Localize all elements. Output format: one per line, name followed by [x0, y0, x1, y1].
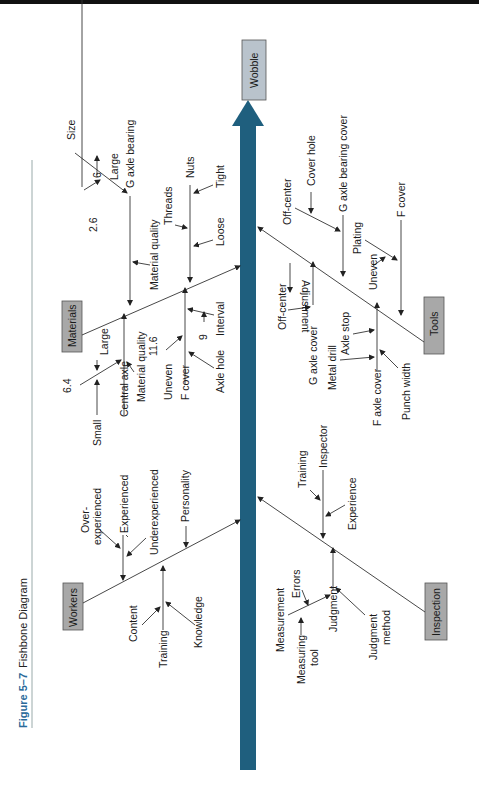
cause-adjustment: Adjustment [300, 280, 312, 333]
inspection-label: Inspection [430, 588, 442, 636]
cause-inspector: Inspector [317, 424, 329, 468]
cause-training-inspection: Training [296, 450, 308, 488]
cause-knowledge: Knowledge [192, 596, 204, 648]
cause-judgment-method-2: method [380, 610, 392, 645]
spine-arrow [232, 100, 264, 770]
cause-f-cover: F cover [179, 364, 191, 400]
cause-loose: Loose [214, 217, 226, 246]
cause-interval: Interval [214, 302, 226, 336]
cause-material-quality: Material quality [135, 331, 147, 402]
cause-f-axle-cover: F axle cover [371, 368, 383, 426]
effect-label: Wobble [248, 52, 260, 88]
cause-central-axle: Central axle [118, 361, 130, 417]
cause-cover-hole: Cover hole [305, 135, 317, 186]
category-box-tools: Tools [424, 297, 444, 354]
cause-punch-width: Punch width [400, 363, 412, 420]
figure-title: Fishbone Diagram [17, 578, 29, 668]
materials-label: Materials [66, 304, 78, 347]
cause-measurement: Measurement [274, 588, 286, 652]
cause-6-4: 6.4 [61, 378, 73, 393]
cause-judgment-method-1: Judgment [367, 614, 379, 660]
cause-content: Content [127, 605, 139, 642]
category-box-workers: Workers [63, 583, 83, 630]
category-box-inspection: Inspection [425, 583, 447, 640]
cause-size-6: 6 [91, 172, 103, 178]
cause-uneven-tools: Uneven [367, 254, 379, 290]
category-box-materials: Materials [62, 301, 82, 352]
cause-personality: Personality [179, 469, 191, 522]
cause-tight: Tight [214, 165, 226, 188]
cause-measuring-tool-1: Measuring [295, 635, 307, 684]
cause-size-large: Large [108, 153, 120, 180]
cause-size-2-6: 2.6 [87, 217, 99, 232]
cause-experience: Experience [346, 477, 358, 530]
cause-nuts: Nuts [184, 156, 196, 178]
cause-off-center-top: Off-center [281, 178, 293, 225]
fishbone-diagram: Figure 5–7 Fishbone Diagram Wobble Mater… [0, 0, 479, 805]
cause-axle-stop: Axle stop [339, 312, 351, 355]
workers-label: Workers [67, 588, 79, 627]
cause-f-cover-tools: F cover [395, 181, 407, 217]
cause-central-large: Large [98, 328, 110, 355]
cause-uneven: Uneven [162, 364, 174, 400]
cause-material-quality-top: Material quality [148, 219, 160, 290]
cause-experienced: Experienced [118, 474, 130, 533]
cause-plating: Plating [351, 222, 363, 254]
cause-g-axle-bearing-cover: G axle bearing cover [337, 115, 349, 212]
cause-9: 9 [197, 334, 209, 340]
cause-size: Size [65, 119, 77, 140]
cause-measuring-tool-2: tool [308, 649, 320, 666]
figure-number: Figure 5–7 [17, 673, 29, 728]
cause-11-6: 11.6 [147, 336, 159, 356]
cause-axle-hole: Axle hole [214, 350, 226, 393]
cause-small: Small [91, 420, 103, 446]
cause-over-experienced-2: experienced [91, 488, 103, 545]
cause-g-axle-cover: G axle cover [307, 326, 319, 385]
effect-box: Wobble [242, 40, 266, 100]
cause-g-axle-bearing: G axle bearing [124, 120, 136, 188]
cause-threads: Threads [162, 186, 174, 225]
cause-metal-drill: Metal drill [326, 345, 338, 390]
cause-over-experienced-1: Over- [79, 506, 91, 533]
cause-judgment: Judgment [327, 586, 339, 632]
cause-errors: Errors [290, 569, 302, 598]
tools-label: Tools [428, 311, 440, 336]
cause-training-workers: Training [157, 630, 169, 668]
cause-off-center: Off-center [276, 283, 288, 330]
workers-branch [83, 520, 240, 630]
cause-underexperienced: Underexperienced [148, 469, 160, 555]
